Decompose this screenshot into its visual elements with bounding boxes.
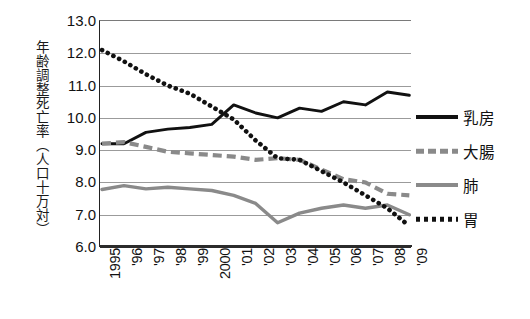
x-tick-label: '06 bbox=[348, 248, 364, 266]
x-axis-line bbox=[99, 245, 412, 247]
legend-line-icon bbox=[416, 115, 458, 119]
series-line bbox=[102, 50, 409, 226]
legend-line-icon bbox=[416, 217, 458, 222]
y-tick-label: 13.0 bbox=[67, 12, 96, 29]
x-tick-label: '99 bbox=[195, 248, 211, 266]
y-tick-label: 8.0 bbox=[75, 173, 96, 190]
legend-label: 肺 bbox=[463, 174, 479, 196]
y-axis-tick-labels: 13.012.011.010.09.08.07.06.0 bbox=[48, 0, 96, 319]
legend-item: 胃 bbox=[416, 202, 526, 236]
legend-label: 乳房 bbox=[463, 106, 495, 128]
series-line bbox=[102, 92, 409, 144]
x-tick-label: '04 bbox=[305, 248, 321, 266]
x-tick-label: '05 bbox=[327, 248, 343, 266]
x-tick-label: '96 bbox=[129, 248, 145, 266]
plot-area bbox=[99, 20, 411, 246]
y-axis-title: 年齢調整死亡率（人口十万対） bbox=[14, 12, 48, 264]
legend-label: 胃 bbox=[463, 208, 479, 230]
legend-item: 乳房 bbox=[416, 100, 526, 134]
x-tick-label: '07 bbox=[370, 248, 386, 266]
y-tick-label: 6.0 bbox=[75, 238, 96, 255]
x-tick-label: '02 bbox=[261, 248, 277, 266]
legend-item: 大腸 bbox=[416, 134, 526, 168]
y-tick-label: 11.0 bbox=[68, 76, 96, 93]
series-lines bbox=[100, 21, 412, 247]
x-tick-label: '97 bbox=[151, 248, 167, 266]
y-tick-label: 9.0 bbox=[75, 141, 96, 158]
chart-root: 年齢調整死亡率（人口十万対） 13.012.011.010.09.08.07.0… bbox=[0, 0, 530, 319]
legend-swatch bbox=[416, 178, 458, 192]
x-tick-label: '03 bbox=[283, 248, 299, 266]
x-tick-label: 1995 bbox=[107, 248, 123, 279]
x-axis-tick-labels: 1995'96'97'98'992000'01'02'03'04'05'06'0… bbox=[99, 248, 411, 308]
y-tick-label: 7.0 bbox=[75, 205, 96, 222]
chart-legend: 乳房大腸肺胃 bbox=[416, 100, 526, 236]
y-tick-label: 10.0 bbox=[67, 108, 96, 125]
y-tick-label: 12.0 bbox=[67, 44, 96, 61]
legend-swatch bbox=[416, 144, 458, 158]
legend-line-icon bbox=[416, 183, 458, 187]
x-tick-label: '08 bbox=[392, 248, 408, 266]
legend-swatch bbox=[416, 110, 458, 124]
x-tick-label: '98 bbox=[173, 248, 189, 266]
legend-item: 肺 bbox=[416, 168, 526, 202]
legend-swatch bbox=[416, 212, 458, 226]
series-line bbox=[102, 186, 409, 223]
x-tick-label: '09 bbox=[414, 248, 430, 266]
legend-line-icon bbox=[416, 149, 458, 154]
legend-label: 大腸 bbox=[463, 140, 495, 162]
x-tick-label: 2000 bbox=[217, 248, 233, 279]
x-tick-label: '01 bbox=[239, 248, 255, 266]
